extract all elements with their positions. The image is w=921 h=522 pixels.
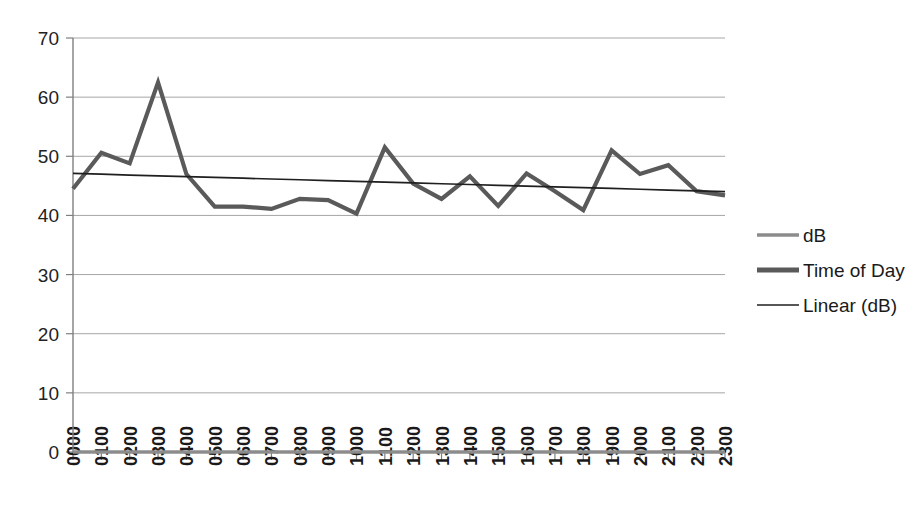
y-axis-tick-label: 20: [38, 324, 59, 345]
series-line-time-of-day: [73, 82, 725, 213]
x-axis-tick-label: 2200: [688, 426, 708, 466]
x-axis-tick-label: 1500: [489, 426, 509, 466]
x-axis-tick-label: 1700: [546, 426, 566, 466]
x-axis-tick-label: 0400: [177, 426, 197, 466]
gridlines: [73, 38, 725, 452]
y-axis-tickmarks: [66, 38, 73, 452]
x-axis-tick-label: 0900: [319, 426, 339, 466]
x-axis-tick-label: 1800: [574, 426, 594, 466]
x-axis-labels: 0000010002000300040005000600070008000900…: [64, 426, 736, 466]
y-axis-tick-label: 30: [38, 265, 59, 286]
x-axis-tick-label: 1400: [461, 426, 481, 466]
y-axis-tick-label: 10: [38, 383, 59, 404]
legend-label-3: Linear (dB): [803, 295, 897, 316]
x-axis-tick-label: 0200: [121, 426, 141, 466]
line-chart: 010203040506070 000001000200030004000500…: [0, 0, 921, 522]
chart-legend: dBTime of DayLinear (dB): [757, 225, 905, 316]
x-axis-tick-label: 1300: [433, 426, 453, 466]
x-axis-tick-label: 0600: [234, 426, 254, 466]
series-line-linear-db: [73, 173, 725, 191]
series-layer: [73, 82, 725, 452]
x-axis-tick-label: 2000: [631, 426, 651, 466]
y-axis-tick-label: 0: [48, 442, 59, 463]
x-axis-tick-label: 1100: [376, 427, 396, 466]
x-axis-tick-label: 1900: [603, 426, 623, 466]
y-axis-labels: 010203040506070: [38, 28, 59, 463]
x-axis-tick-label: 1200: [404, 426, 424, 466]
y-axis-tick-label: 40: [38, 205, 59, 226]
x-axis-tick-label: 0700: [262, 426, 282, 466]
chart-container: 010203040506070 000001000200030004000500…: [0, 0, 921, 522]
x-axis-tick-label: 2300: [716, 426, 736, 466]
x-axis-tick-label: 0800: [291, 426, 311, 466]
y-axis-tick-label: 70: [38, 28, 59, 49]
x-axis-tick-label: 0000: [64, 426, 84, 466]
x-axis-tick-label: 0100: [92, 426, 112, 466]
x-axis-tick-label: 2100: [659, 426, 679, 466]
x-axis-tick-label: 1600: [518, 426, 538, 466]
y-axis-tick-label: 60: [38, 87, 59, 108]
x-axis-tick-label: 0500: [206, 426, 226, 466]
y-axis-tick-label: 50: [38, 146, 59, 167]
legend-label-2: Time of Day: [803, 260, 905, 281]
x-axis-tick-label: 0300: [149, 426, 169, 466]
legend-label-1: dB: [803, 225, 826, 246]
x-axis-tick-label: 1000: [347, 426, 367, 466]
